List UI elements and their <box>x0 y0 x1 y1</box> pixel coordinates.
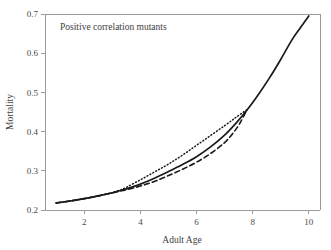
y-tick-label: 0.3 <box>27 166 39 176</box>
x-tick-label: 6 <box>194 217 199 227</box>
series-line-dashed <box>56 110 247 203</box>
series-line-solid <box>56 16 309 203</box>
plot-frame <box>45 14 320 210</box>
x-tick-label: 8 <box>250 217 255 227</box>
y-tick-label: 0.6 <box>27 48 39 58</box>
x-tick-label: 4 <box>138 217 143 227</box>
y-tick-label: 0.2 <box>27 205 38 215</box>
series-layer <box>56 16 309 203</box>
x-tick-label: 2 <box>82 217 87 227</box>
x-tick-label: 10 <box>304 217 314 227</box>
axes-layer: 0.20.30.40.50.60.7246810 <box>27 9 320 227</box>
y-tick-label: 0.5 <box>27 88 39 98</box>
y-tick-label: 0.7 <box>27 9 39 19</box>
x-axis-title: Adult Age <box>162 235 201 245</box>
y-axis-title: Mortality <box>5 94 15 130</box>
panel-title: Positive correlation mutants <box>60 22 167 32</box>
series-line-dotted <box>56 110 247 203</box>
mortality-chart-figure: 0.20.30.40.50.60.7246810 Positive correl… <box>0 0 331 250</box>
y-tick-label: 0.4 <box>27 127 39 137</box>
chart-canvas: 0.20.30.40.50.60.7246810 Positive correl… <box>0 0 331 250</box>
